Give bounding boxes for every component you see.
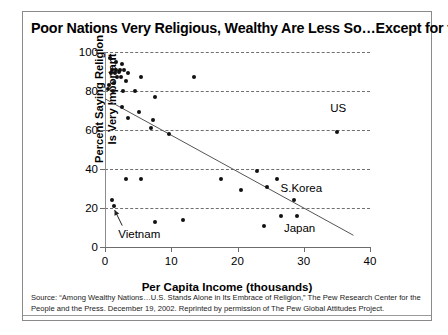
data-point — [120, 62, 124, 66]
x-tick-label-20: 20 — [231, 255, 244, 267]
plot-wrapper: Percent Saying Religion Is Very Importan… — [23, 40, 431, 275]
data-point — [124, 177, 128, 181]
data-point — [149, 126, 153, 130]
data-point — [126, 71, 130, 75]
data-point — [181, 218, 185, 222]
data-point — [111, 89, 115, 93]
data-point — [151, 118, 155, 122]
data-point — [255, 169, 259, 173]
data-point — [110, 198, 114, 202]
data-point — [167, 132, 171, 136]
annotation-us: US — [330, 102, 346, 114]
data-point — [108, 56, 112, 60]
x-tick-10 — [171, 247, 172, 252]
data-point — [121, 89, 125, 93]
data-point — [279, 214, 283, 218]
data-point — [265, 185, 269, 189]
y-tick-label-0: 0 — [92, 241, 98, 253]
y-tick-label-80: 80 — [85, 85, 98, 97]
trend-line — [105, 99, 353, 236]
data-point — [153, 220, 157, 224]
data-point — [120, 105, 124, 109]
data-point — [153, 95, 157, 99]
data-point — [122, 68, 126, 72]
x-tick-label-0: 0 — [102, 255, 108, 267]
data-point — [192, 75, 196, 79]
data-point — [137, 110, 141, 114]
data-point — [239, 188, 243, 192]
x-tick-0 — [105, 247, 106, 252]
plot-area: 100 80 60 40 20 0 0 10 20 30 40 USS.Kore… — [105, 52, 370, 247]
annotation-s-korea: S.Korea — [281, 182, 323, 194]
data-point — [139, 177, 143, 181]
annotation-japan: Japan — [284, 222, 315, 234]
x-tick-30 — [304, 247, 305, 252]
x-tick-40 — [370, 247, 371, 252]
data-point — [292, 198, 296, 202]
data-point — [114, 60, 118, 64]
data-point — [117, 70, 121, 74]
data-point — [262, 224, 266, 228]
data-point — [139, 75, 143, 79]
x-tick-label-10: 10 — [165, 255, 178, 267]
y-tick-label-60: 60 — [85, 124, 98, 136]
data-point — [119, 75, 123, 79]
x-tick-label-30: 30 — [297, 255, 310, 267]
source-line-2: the Press. December 19, 2002. Reprinted … — [72, 304, 385, 313]
data-point — [275, 177, 279, 181]
data-point — [106, 87, 110, 91]
y-tick-label-20: 20 — [85, 202, 98, 214]
y-tick-label-40: 40 — [85, 163, 98, 175]
data-point — [112, 204, 116, 208]
x-tick-20 — [238, 247, 239, 252]
data-point — [219, 177, 223, 181]
data-point — [112, 81, 116, 85]
chart-title: Poor Nations Very Religious, Wealthy Are… — [31, 20, 427, 36]
figure-container: Poor Nations Very Religious, Wealthy Are… — [22, 11, 432, 321]
data-point — [133, 89, 137, 93]
data-point — [124, 79, 128, 83]
data-point — [295, 214, 299, 218]
source-divider — [23, 315, 431, 316]
annotation-vietnam: Vietnam — [118, 228, 160, 240]
x-tick-label-40: 40 — [364, 255, 377, 267]
data-overlay — [105, 52, 370, 247]
x-axis-title: Per Capita Income (thousands) — [23, 280, 431, 293]
data-point — [335, 130, 339, 134]
y-tick-label-100: 100 — [79, 46, 98, 58]
data-point — [126, 116, 130, 120]
source-note: Source: “Among Wealthy Nations…U.S. Stan… — [31, 293, 425, 314]
